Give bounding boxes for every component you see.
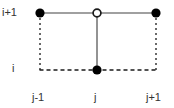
node-top-left [35,8,44,17]
col-label-j: j [94,92,96,103]
node-bottom-center [92,65,101,74]
node-top-right [151,8,160,17]
row-label-i: i [12,63,14,74]
col-label-j-plus-1: j+1 [146,92,161,103]
node-top-center [93,9,101,17]
col-label-j-minus-1: j-1 [32,92,44,103]
row-label-i-plus-1: i+1 [2,7,17,18]
grid-stencil-figure: i+1 i j-1 j j+1 [0,0,174,108]
